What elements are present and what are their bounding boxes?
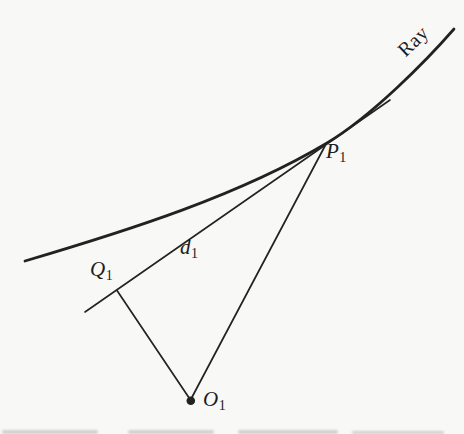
point-o1-dot (187, 397, 196, 406)
label-d1-letter: d (180, 235, 191, 259)
label-p1-subscript: 1 (339, 150, 346, 165)
label-d1-subscript: 1 (191, 246, 198, 261)
label-p1-letter: P (326, 139, 339, 163)
line-o1-q1 (117, 291, 191, 401)
ray-curve (25, 29, 454, 261)
label-o1-letter: O (203, 387, 219, 411)
label-q1: Q1 (90, 259, 113, 283)
label-o1: O1 (203, 389, 226, 413)
geometry-figure: Ray P1 Q1 d1 O1 (0, 0, 464, 434)
label-d1: d1 (180, 237, 198, 261)
label-q1-subscript: 1 (106, 268, 113, 283)
label-o1-subscript: 1 (219, 398, 226, 413)
label-q1-letter: Q (90, 257, 106, 281)
cropped-caption-remnant (238, 430, 338, 434)
cropped-caption-remnant (2, 430, 98, 434)
diagram-svg (0, 0, 464, 434)
label-p1: P1 (326, 141, 346, 165)
line-o1-p1 (191, 144, 327, 400)
cropped-caption-remnant (128, 430, 214, 434)
chord-line-q1-p1 (85, 100, 390, 312)
